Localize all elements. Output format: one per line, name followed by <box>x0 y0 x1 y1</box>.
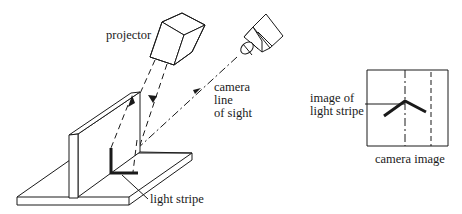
camera-image-label: camera image <box>375 153 445 166</box>
image-of-stripe-label-2: light stripe <box>310 105 364 118</box>
projector-icon <box>150 13 205 65</box>
camera-line-label-3: of sight <box>214 107 252 120</box>
projector-label: projector <box>106 29 151 42</box>
camera-image-panel <box>365 70 448 146</box>
camera-icon <box>238 14 283 56</box>
light-stripe-label: light stripe <box>150 193 204 206</box>
